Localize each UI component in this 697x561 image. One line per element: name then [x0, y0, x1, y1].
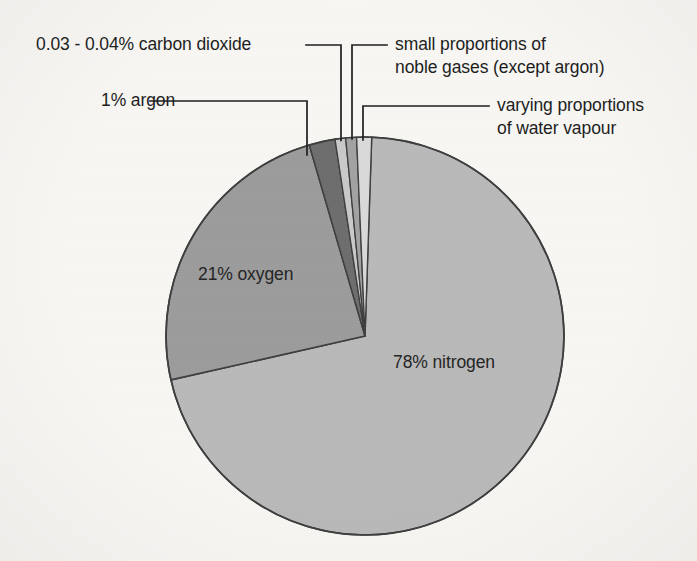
callout-label-water-vapour-line2: of water vapour: [497, 117, 644, 140]
slice-label-oxygen: 21% oxygen: [198, 264, 293, 285]
callout-label-noble-gases: small proportions of noble gases (except…: [395, 33, 604, 79]
pie-chart-figure: 0.03 - 0.04% carbon dioxide 1% argon sma…: [0, 0, 697, 561]
leader-line-carbon-dioxide: [306, 45, 341, 141]
slice-label-nitrogen: 78% nitrogen: [393, 352, 495, 373]
callout-label-noble-gases-line2: noble gases (except argon): [395, 56, 604, 79]
callout-label-water-vapour: varying proportions of water vapour: [497, 94, 644, 140]
pie-chart-canvas: [0, 0, 697, 561]
callout-label-water-vapour-line1: varying proportions: [497, 94, 644, 117]
callout-label-carbon-dioxide: 0.03 - 0.04% carbon dioxide: [36, 33, 251, 56]
leader-line-water-vapour: [363, 106, 489, 140]
callout-label-noble-gases-line1: small proportions of: [395, 33, 604, 56]
callout-label-argon: 1% argon: [101, 89, 175, 112]
leader-line-noble-gases: [352, 45, 387, 139]
